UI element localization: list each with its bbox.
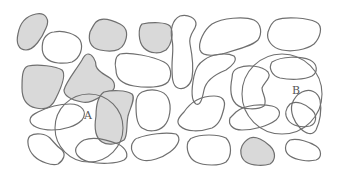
- outline-blob-bottom-1: [28, 134, 64, 165]
- outline-blob-bottom-4: [187, 135, 230, 165]
- shaded-blob-left-mid: [22, 65, 64, 108]
- outline-blob-row3-far-right: [286, 102, 316, 126]
- shaded-blob-top-3: [139, 23, 172, 53]
- blob-diagram: A B: [0, 0, 344, 176]
- shaded-blob-bottom-right: [241, 137, 275, 165]
- outline-blob-top-row-1: [42, 31, 81, 63]
- shaded-blob-top-2: [89, 19, 126, 51]
- outline-blob-top-row-center-tall: [171, 15, 196, 88]
- outline-blob-bottom-3: [131, 133, 178, 160]
- outline-blob-top-row-5: [200, 18, 261, 55]
- label-b: B: [292, 84, 300, 97]
- outline-blob-mid-row-1: [115, 53, 170, 87]
- outline-blob-row3-center: [136, 90, 170, 131]
- sampling-circle-b: [242, 54, 322, 134]
- outline-blob-top-right: [268, 18, 321, 51]
- outline-blob-mid-row-right-of-tall: [192, 54, 235, 104]
- shaded-blob-under-A: [95, 91, 133, 144]
- label-a: A: [83, 109, 93, 122]
- outline-blob-bottom-right: [286, 139, 321, 160]
- outline-blob-mid-row-4: [231, 66, 269, 109]
- outline-blob-mid-row-5-under-B: [270, 57, 316, 79]
